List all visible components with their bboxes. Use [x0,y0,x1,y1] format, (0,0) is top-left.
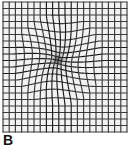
panel-label-b: B [3,133,13,148]
amsler-grid-panel [0,0,130,134]
amsler-grid-plot [0,0,130,134]
grid-center-core [49,51,67,69]
amsler-grid-figure: B [0,0,130,152]
